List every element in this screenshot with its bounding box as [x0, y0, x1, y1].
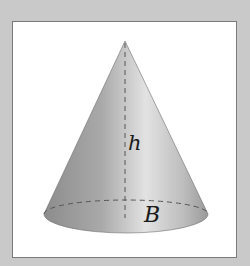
- cone-figure: [0, 0, 250, 266]
- base-label: B: [144, 202, 160, 227]
- height-label: h: [128, 131, 142, 155]
